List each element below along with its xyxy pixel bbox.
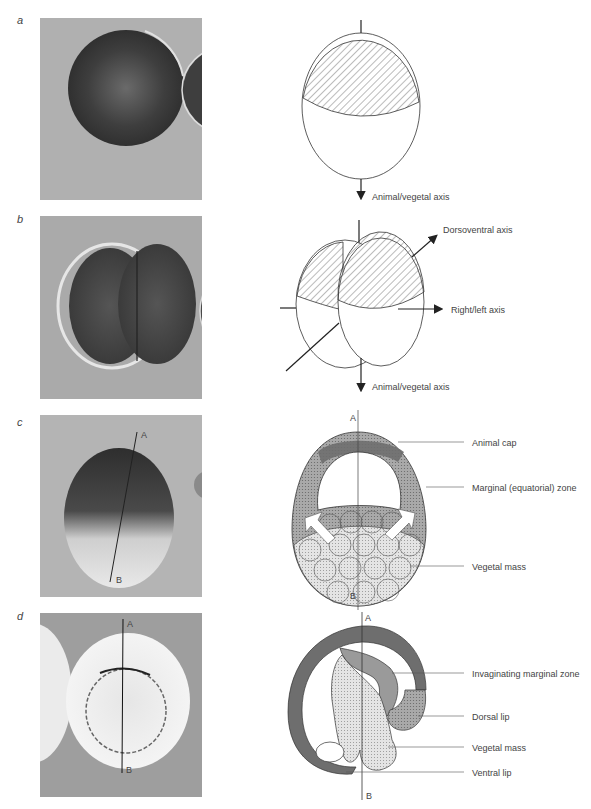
label-animal-cap: Animal cap xyxy=(472,438,517,448)
photo-d-line-label-b: B xyxy=(126,765,132,775)
photo-gastrula: A B xyxy=(40,613,202,797)
panel-label-c: c xyxy=(17,416,23,428)
diagram-a-axis: Animal/vegetal axis xyxy=(280,0,591,210)
photo-c-line-label-b: B xyxy=(116,575,122,585)
photo-blastula: A B xyxy=(40,415,202,597)
panel-label-a: a xyxy=(17,14,23,26)
photo-egg-single-cell xyxy=(40,18,202,200)
label-c-a: A xyxy=(350,413,356,423)
photo-c-line-label-a: A xyxy=(141,430,147,440)
egg-shape xyxy=(68,30,184,146)
label-d-a: A xyxy=(365,613,371,623)
panel-label-b: b xyxy=(17,213,23,225)
label-right-left-axis: Right/left axis xyxy=(451,305,506,315)
photo-d-line-label-a: A xyxy=(127,619,133,629)
diagram-b-axes: Dorsoventral axis Right/left axis Animal… xyxy=(280,210,591,410)
panel-label-d: d xyxy=(17,610,23,622)
label-animal-vegetal-axis-b: Animal/vegetal axis xyxy=(372,382,450,392)
label-dorsal-lip: Dorsal lip xyxy=(472,712,510,722)
label-dorsoventral-axis: Dorsoventral axis xyxy=(443,225,513,235)
label-invaginating-marginal-zone: Invaginating marginal zone xyxy=(472,669,580,679)
diagram-c-blastula-section: A Animal cap Marginal (equatorial) zone … xyxy=(280,410,591,610)
label-ventral-lip: Ventral lip xyxy=(472,768,512,778)
label-vegetal-mass-c: Vegetal mass xyxy=(472,562,527,572)
photo-two-cell-embryo xyxy=(40,216,202,399)
label-marginal-zone: Marginal (equatorial) zone xyxy=(472,483,577,493)
label-vegetal-mass-d: Vegetal mass xyxy=(472,743,527,753)
label-animal-vegetal-axis-a: Animal/vegetal axis xyxy=(372,192,450,202)
diagram-d-gastrula-section: A Invaginating marginal zone Dorsal lip … xyxy=(280,600,591,809)
label-d-b: B xyxy=(366,791,372,801)
